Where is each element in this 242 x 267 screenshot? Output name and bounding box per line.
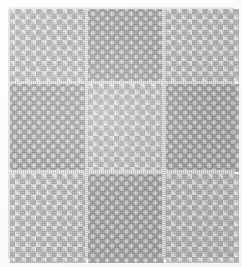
woven-cloth bbox=[9, 8, 234, 258]
fabric-block-top-right bbox=[166, 9, 239, 82]
fabric-block-bottom-center bbox=[88, 174, 164, 263]
fabric-photograph: Grayscale close-up photograph of a woven… bbox=[0, 0, 242, 267]
fabric-block-middle-right bbox=[166, 84, 239, 172]
fabric-block-top-center bbox=[88, 9, 164, 82]
cloth-block-grid bbox=[9, 8, 234, 258]
fabric-block-top-left bbox=[10, 9, 86, 82]
fabric-block-bottom-right bbox=[166, 174, 239, 263]
fabric-block-middle-center bbox=[88, 84, 164, 172]
fabric-block-bottom-left bbox=[10, 174, 86, 263]
fabric-block-middle-left bbox=[10, 84, 86, 172]
